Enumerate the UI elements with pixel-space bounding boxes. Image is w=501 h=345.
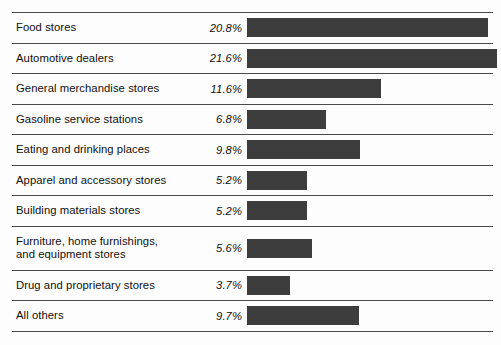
bar [247,306,359,325]
bar-track [247,306,493,325]
category-label-line: Gasoline service stations [16,113,198,127]
bar [247,276,290,295]
category-label: Automotive dealers [12,43,202,74]
table-row: Apparel and accessory stores5.2% [12,165,493,196]
category-label: General merchandise stores [12,74,202,105]
category-label-line: Building materials stores [16,204,198,218]
bar-cell [247,43,493,74]
value-label: 6.8% [202,104,247,135]
category-label-line: Eating and drinking places [16,143,198,157]
bar-cell [247,13,493,44]
table-row: Building materials stores5.2% [12,196,493,227]
bar-track [247,171,493,190]
category-label-line: General merchandise stores [16,82,198,96]
value-label: 5.2% [202,165,247,196]
bar [247,79,381,98]
table-row: Food stores20.8% [12,13,493,44]
value-label: 21.6% [202,43,247,74]
bar-track [247,110,493,129]
bar [247,140,360,159]
category-label: Eating and drinking places [12,135,202,166]
category-label: Building materials stores [12,196,202,227]
bar [247,110,326,129]
value-label: 9.7% [202,301,247,332]
category-label-line: and equipment stores [16,248,198,262]
category-label: All others [12,301,202,332]
bar-cell [247,74,493,105]
table-row: Eating and drinking places9.8% [12,135,493,166]
category-label: Furniture, home furnishings,and equipmen… [12,226,202,270]
bar [247,201,307,220]
category-label-line: Automotive dealers [16,52,198,66]
bar [247,18,488,37]
table-row: Drug and proprietary stores3.7% [12,270,493,301]
value-label: 9.8% [202,135,247,166]
bar-cell [247,196,493,227]
table-row: General merchandise stores11.6% [12,74,493,105]
bar-cell [247,135,493,166]
category-label: Apparel and accessory stores [12,165,202,196]
bar-track [247,276,493,295]
bar-track [247,79,493,98]
bar-track [247,201,493,220]
table-row: Furniture, home furnishings,and equipmen… [12,226,493,270]
bar-track [247,18,493,37]
value-label: 3.7% [202,270,247,301]
bar-cell [247,270,493,301]
bar-cell [247,104,493,135]
category-label-line: All others [16,309,198,323]
value-label: 20.8% [202,13,247,44]
bar-cell [247,301,493,332]
category-label-line: Drug and proprietary stores [16,279,198,293]
bar-track [247,239,493,258]
bar-track [247,140,493,159]
category-label: Food stores [12,13,202,44]
table-row: Automotive dealers21.6% [12,43,493,74]
bar-chart-figure: Food stores20.8%Automotive dealers21.6%G… [0,0,501,345]
bar-cell [247,165,493,196]
category-label-line: Apparel and accessory stores [16,174,198,188]
category-label-line: Food stores [16,21,198,35]
value-label: 5.6% [202,226,247,270]
category-label-line: Furniture, home furnishings, [16,235,198,249]
bar [247,239,312,258]
value-label: 11.6% [202,74,247,105]
bar [247,171,307,190]
bar [247,49,497,68]
chart-rows-table: Food stores20.8%Automotive dealers21.6%G… [12,12,493,332]
category-label: Gasoline service stations [12,104,202,135]
table-row: Gasoline service stations6.8% [12,104,493,135]
bar-cell [247,226,493,270]
category-label: Drug and proprietary stores [12,270,202,301]
bar-track [247,49,493,68]
table-row: All others9.7% [12,301,493,332]
value-label: 5.2% [202,196,247,227]
